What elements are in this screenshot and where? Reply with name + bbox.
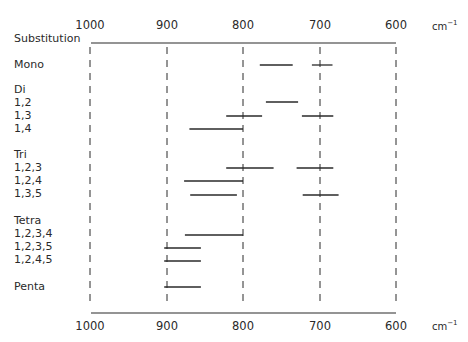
row-label-mono: Mono	[14, 58, 44, 71]
row-label-1-2-3: 1,2,3	[14, 161, 42, 174]
row-label-penta: Penta	[14, 280, 45, 293]
row-label-1-2-3-4: 1,2,3,4	[14, 227, 52, 240]
range-bars	[164, 65, 338, 287]
top-tick-800: 800	[232, 18, 254, 32]
top-tick-600: 600	[385, 18, 407, 32]
substitution-header: Substitution	[14, 32, 80, 45]
row-label-1-2: 1,2	[14, 96, 32, 109]
bottom-unit-label: cm−1	[432, 319, 458, 332]
bottom-tick-800: 800	[232, 319, 254, 333]
row-label-1-3: 1,3	[14, 109, 32, 122]
substitution-ir-chart: 1000 900 800 700 600 cm−1 1000 900 800 7…	[0, 0, 468, 342]
bottom-tick-1000: 1000	[75, 319, 104, 333]
row-label-1-4: 1,4	[14, 122, 32, 135]
bottom-tick-700: 700	[309, 319, 331, 333]
bottom-axis-labels: 1000 900 800 700 600 cm−1	[75, 319, 457, 333]
row-label-1-2-3-5: 1,2,3,5	[14, 240, 52, 253]
bottom-tick-900: 900	[156, 319, 178, 333]
top-tick-1000: 1000	[75, 18, 104, 32]
top-tick-700: 700	[309, 18, 331, 32]
row-label-tetra: Tetra	[13, 214, 41, 227]
row-labels: Substitution Mono Di 1,2 1,3 1,4 Tri 1,2…	[13, 32, 80, 293]
top-axis-labels: 1000 900 800 700 600 cm−1	[75, 18, 457, 32]
top-tick-900: 900	[156, 18, 178, 32]
row-label-tri: Tri	[13, 148, 27, 161]
dashed-gridlines	[90, 47, 396, 306]
bottom-tick-600: 600	[385, 319, 407, 333]
top-unit-label: cm−1	[432, 19, 458, 32]
row-label-1-3-5: 1,3,5	[14, 187, 42, 200]
row-label-1-2-4: 1,2,4	[14, 174, 42, 187]
row-label-1-2-4-5: 1,2,4,5	[14, 253, 52, 266]
row-label-di: Di	[14, 83, 26, 96]
